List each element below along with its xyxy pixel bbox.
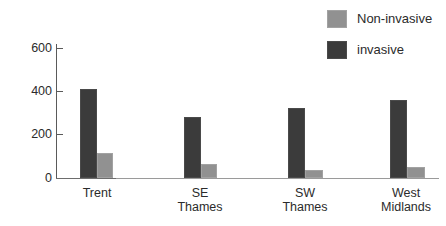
bar-non-invasive-sw-thames xyxy=(305,170,323,178)
legend-item-non-invasive: Non-invasive xyxy=(327,10,432,28)
bar-non-invasive-west-midlands xyxy=(407,167,425,178)
x-label-trent: Trent xyxy=(57,186,137,200)
bar-invasive-trent xyxy=(80,89,97,178)
bar-chart: 600 400 200 0 Trent xyxy=(0,0,446,226)
x-label-sw-thames: SW Thames xyxy=(265,186,345,214)
legend-label-invasive: invasive xyxy=(357,43,404,57)
bar-invasive-se-thames xyxy=(184,117,201,178)
bar-invasive-sw-thames xyxy=(288,108,305,178)
x-axis-origin-segment xyxy=(56,178,116,179)
bar-non-invasive-se-thames xyxy=(201,164,217,178)
x-label-se-thames: SE Thames xyxy=(160,186,240,214)
legend-swatch-invasive-icon xyxy=(327,41,347,59)
legend-item-invasive: invasive xyxy=(327,41,404,59)
legend-swatch-non-invasive-icon xyxy=(327,10,347,28)
legend-label-non-invasive: Non-invasive xyxy=(357,12,432,26)
bar-non-invasive-trent xyxy=(97,153,113,178)
plot-area: 600 400 200 0 Trent xyxy=(0,0,446,226)
bar-invasive-west-midlands xyxy=(390,100,407,178)
x-label-west-midlands: West Midlands xyxy=(366,186,446,214)
